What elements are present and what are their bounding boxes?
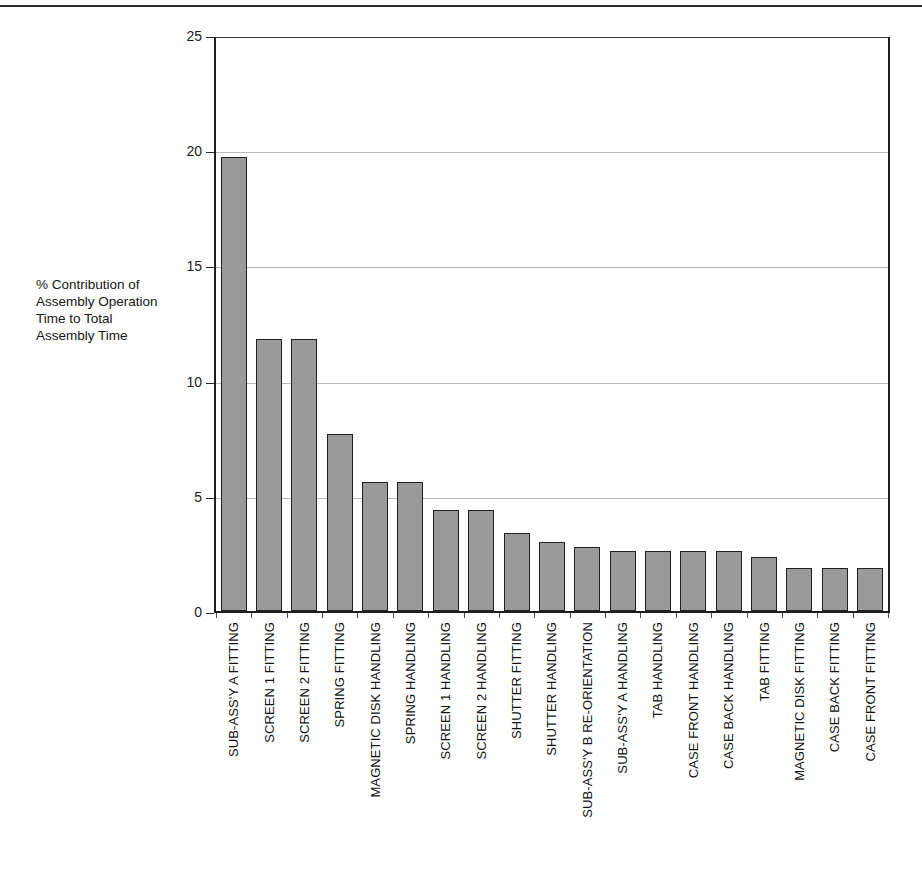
bars-layer xyxy=(216,37,888,611)
bar-slot xyxy=(464,37,499,611)
bar-chart-figure: % Contribution of Assembly Operation Tim… xyxy=(0,0,922,884)
bar[interactable] xyxy=(680,551,706,611)
bar[interactable] xyxy=(539,542,565,611)
y-axis-title-line-2: Assembly Operation xyxy=(36,293,186,310)
bar-slot xyxy=(428,37,463,611)
bar-slot xyxy=(570,37,605,611)
bar-slot xyxy=(287,37,322,611)
x-tick xyxy=(393,613,394,618)
y-axis-title-line-4: Assembly Time xyxy=(36,327,186,344)
bar[interactable] xyxy=(822,568,848,611)
bar[interactable] xyxy=(786,568,812,611)
x-tick xyxy=(888,613,889,618)
bar[interactable] xyxy=(857,568,883,611)
x-label-slot: CASE FRONT HANDLING xyxy=(676,622,711,882)
x-axis-label: SCREEN 1 HANDLING xyxy=(439,622,452,760)
bar[interactable] xyxy=(291,339,317,611)
x-axis-label: CASE FRONT HANDLING xyxy=(687,622,700,778)
y-tick-dash xyxy=(206,267,214,268)
x-axis-label: MAGNETIC DISK HANDLING xyxy=(369,622,382,798)
bar[interactable] xyxy=(256,339,282,611)
bar-slot xyxy=(605,37,640,611)
x-tick xyxy=(428,613,429,618)
x-label-slot: SPRING HANDLING xyxy=(393,622,428,882)
bar-slot xyxy=(711,37,746,611)
bar[interactable] xyxy=(610,551,636,611)
x-label-slot: SUB-ASS'Y B RE-ORIENTATION xyxy=(570,622,605,882)
x-axis-label: CASE BACK HANDLING xyxy=(722,622,735,769)
x-axis-label: SHUTTER FITTING xyxy=(510,622,523,739)
bar[interactable] xyxy=(397,482,423,611)
x-tick xyxy=(782,613,783,618)
x-axis-label: SCREEN 2 HANDLING xyxy=(475,622,488,760)
bar[interactable] xyxy=(574,547,600,612)
x-tick xyxy=(711,613,712,618)
bar-slot xyxy=(393,37,428,611)
x-axis-label: SUB-ASS'Y B RE-ORIENTATION xyxy=(581,622,594,818)
bar-slot xyxy=(746,37,781,611)
x-label-slot: SPRING FITTING xyxy=(322,622,357,882)
x-axis-label: TAB HANDLING xyxy=(651,622,664,718)
x-tick xyxy=(534,613,535,618)
x-label-slot: TAB FITTING xyxy=(746,622,781,882)
x-axis-label: CASE BACK FITTING xyxy=(828,622,841,752)
x-label-slot: MAGNETIC DISK HANDLING xyxy=(357,622,392,882)
x-tick xyxy=(570,613,571,618)
bar-slot xyxy=(357,37,392,611)
bar-slot xyxy=(322,37,357,611)
x-axis-label: SUB-ASS'Y A FITTING xyxy=(227,622,240,757)
bar[interactable] xyxy=(327,434,353,611)
x-label-slot: SUB-ASS'Y A HANDLING xyxy=(605,622,640,882)
y-tick-label: 10 xyxy=(186,375,202,389)
y-axis-title-line-1: % Contribution of xyxy=(36,276,186,293)
x-label-slot: SCREEN 1 FITTING xyxy=(251,622,286,882)
x-label-slot: MAGNETIC DISK FITTING xyxy=(782,622,817,882)
x-axis-label: SCREEN 2 FITTING xyxy=(298,622,311,743)
x-axis-label: SUB-ASS'Y A HANDLING xyxy=(616,622,629,774)
bar-slot xyxy=(216,37,251,611)
x-tick xyxy=(322,613,323,618)
bar[interactable] xyxy=(751,557,777,611)
x-tick xyxy=(499,613,500,618)
x-tick xyxy=(216,613,217,618)
x-axis-label: SCREEN 1 FITTING xyxy=(263,622,276,743)
y-axis-title-line-3: Time to Total xyxy=(36,310,186,327)
x-label-slot: SHUTTER FITTING xyxy=(499,622,534,882)
y-tick-dash xyxy=(206,383,214,384)
x-tick xyxy=(605,613,606,618)
bar[interactable] xyxy=(362,482,388,611)
x-tick xyxy=(853,613,854,618)
x-axis-label: SPRING FITTING xyxy=(333,622,346,727)
bar-slot xyxy=(676,37,711,611)
x-label-slot: CASE BACK HANDLING xyxy=(711,622,746,882)
y-tick-label: 25 xyxy=(186,29,202,43)
bar-slot xyxy=(251,37,286,611)
x-axis-label: MAGNETIC DISK FITTING xyxy=(793,622,806,781)
x-axis-label: SHUTTER HANDLING xyxy=(545,622,558,756)
y-tick-dash xyxy=(206,152,214,153)
bar[interactable] xyxy=(504,533,530,611)
bar[interactable] xyxy=(716,551,742,611)
x-axis-label: SPRING HANDLING xyxy=(404,622,417,744)
bar[interactable] xyxy=(645,551,671,611)
bar-slot xyxy=(782,37,817,611)
bar-slot xyxy=(852,37,887,611)
x-tick xyxy=(464,613,465,618)
x-label-slot: SCREEN 2 FITTING xyxy=(287,622,322,882)
x-tick xyxy=(817,613,818,618)
x-label-slot: CASE BACK FITTING xyxy=(817,622,852,882)
bar[interactable] xyxy=(468,510,494,611)
y-tick-label: 15 xyxy=(186,259,202,273)
y-tick-label: 20 xyxy=(186,144,202,158)
y-tick-label: 0 xyxy=(194,605,202,619)
y-axis-title: % Contribution of Assembly Operation Tim… xyxy=(36,276,186,344)
x-tick xyxy=(357,613,358,618)
bar[interactable] xyxy=(433,510,459,611)
x-tick xyxy=(676,613,677,618)
x-label-slot: SUB-ASS'Y A FITTING xyxy=(216,622,251,882)
bar-slot xyxy=(817,37,852,611)
bar-slot xyxy=(534,37,569,611)
bar[interactable] xyxy=(221,157,247,611)
x-label-slot: SHUTTER HANDLING xyxy=(534,622,569,882)
y-tick-dash xyxy=(206,37,214,38)
